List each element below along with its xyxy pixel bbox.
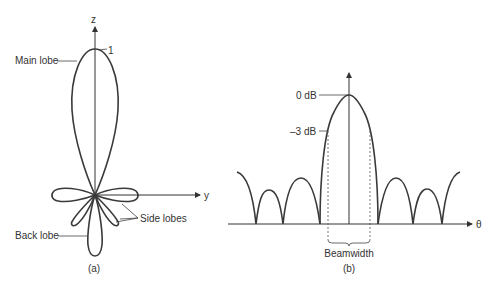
- z-axis-label: z: [91, 14, 96, 25]
- y-axis-label: y: [204, 190, 209, 201]
- side-lobes-right: [378, 172, 460, 224]
- peak-value-label: 1: [108, 45, 114, 56]
- figure-a-caption: (a): [88, 263, 100, 274]
- beamwidth-brace: [328, 240, 370, 246]
- figure-b-caption: (b): [343, 263, 355, 274]
- polar-pattern-diagram: z y 1 Main lobe Side lobes Back lobe (a): [15, 14, 209, 274]
- rectangular-pattern-diagram: 0 dB –3 dB θ Beamwidth (b): [228, 73, 482, 274]
- back-lobe-label: Back lobe: [15, 230, 59, 241]
- level-0db-label: 0 dB: [296, 90, 317, 101]
- beamwidth-label: Beamwidth: [324, 248, 373, 259]
- level-minus3db-label: –3 dB: [290, 126, 316, 137]
- main-lobe-label: Main lobe: [15, 55, 59, 66]
- back-lobe: [88, 195, 102, 256]
- side-lobes-label: Side lobes: [140, 213, 187, 224]
- theta-axis-label: θ: [476, 219, 482, 230]
- antenna-radiation-pattern-figure: z y 1 Main lobe Side lobes Back lobe (a)…: [0, 0, 492, 285]
- peak-leader-line: [99, 49, 107, 50]
- side-lobes-leader-line: [120, 204, 138, 219]
- side-lobes-left: [237, 172, 320, 224]
- side-lobe-left: [52, 188, 95, 201]
